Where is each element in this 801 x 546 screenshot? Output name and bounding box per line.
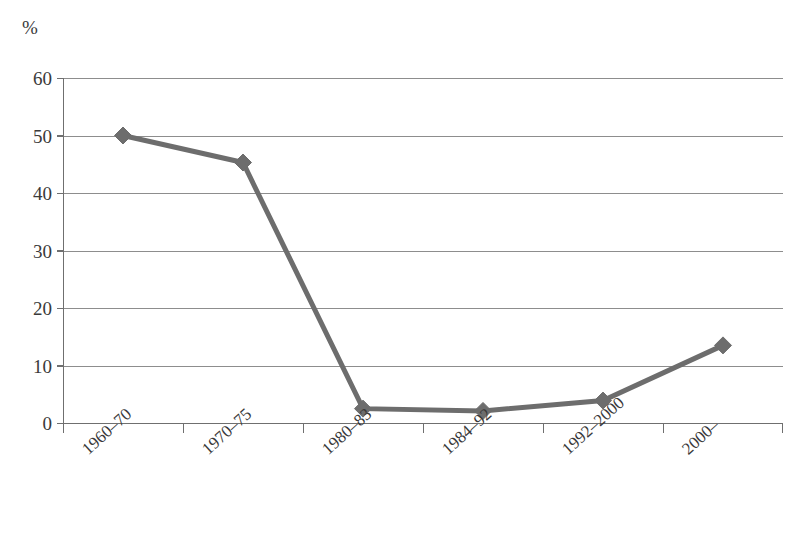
line-chart: % 0102030405060 1960–701970–751980–83198…: [0, 0, 801, 546]
y-axis-tick-label: 0: [43, 414, 53, 433]
x-axis-tick-labels: 1960–701970–751980–831984–921992–2000200…: [63, 423, 783, 546]
y-axis-tick-label: 60: [33, 69, 52, 88]
data-series: [63, 78, 783, 423]
data-point-marker: [235, 154, 252, 171]
y-axis-unit-label: %: [22, 18, 38, 37]
y-axis-tick-label: 30: [33, 241, 52, 260]
y-axis-tick-label: 50: [33, 126, 52, 145]
y-axis-tick-label: 40: [33, 184, 52, 203]
plot-area: [63, 78, 783, 423]
x-axis-tick-label: 2000–: [679, 417, 722, 458]
y-axis-tick-label: 10: [33, 356, 52, 375]
data-point-marker: [715, 337, 732, 354]
y-axis-tick-labels: 0102030405060: [0, 78, 52, 423]
y-axis-tick-label: 20: [33, 299, 52, 318]
series-line: [123, 136, 723, 411]
data-point-marker: [115, 127, 132, 144]
